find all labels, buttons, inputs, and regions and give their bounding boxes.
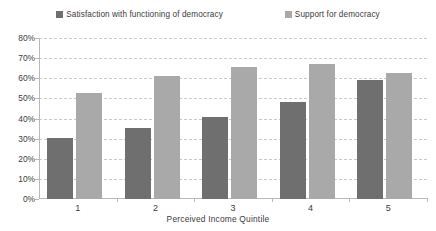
chart-legend: Satisfaction with functioning of democra… bbox=[0, 6, 436, 22]
y-tick-label: 70% bbox=[3, 53, 35, 63]
x-tick-mark bbox=[349, 198, 350, 202]
bar-support[interactable] bbox=[309, 64, 335, 199]
y-tick-label: 60% bbox=[3, 73, 35, 83]
bar-support[interactable] bbox=[76, 93, 102, 199]
bar-chart: Satisfaction with functioning of democra… bbox=[0, 0, 436, 231]
bar-support[interactable] bbox=[386, 73, 412, 199]
bar-support[interactable] bbox=[231, 67, 257, 199]
y-tick-label: 40% bbox=[3, 114, 35, 124]
bar-group bbox=[349, 38, 427, 199]
y-tick-mark bbox=[35, 199, 39, 200]
x-tick-label: 2 bbox=[135, 203, 175, 213]
bar-group bbox=[272, 38, 350, 199]
legend-swatch-support bbox=[285, 11, 292, 18]
bar-group bbox=[194, 38, 272, 199]
y-tick-label: 0% bbox=[3, 194, 35, 204]
legend-label-satisfaction: Satisfaction with functioning of democra… bbox=[66, 10, 223, 19]
x-tick-label: 1 bbox=[58, 203, 98, 213]
legend-swatch-satisfaction bbox=[56, 11, 63, 18]
bar-satisfaction[interactable] bbox=[280, 102, 306, 199]
y-axis-labels: 0%10%20%30%40%50%60%70%80% bbox=[0, 38, 35, 199]
bar-satisfaction[interactable] bbox=[202, 117, 228, 200]
bar-support[interactable] bbox=[154, 76, 180, 199]
bar-satisfaction[interactable] bbox=[357, 80, 383, 199]
x-axis-title: Perceived Income Quintile bbox=[0, 214, 436, 224]
y-tick-label: 10% bbox=[3, 174, 35, 184]
x-tick-mark bbox=[194, 198, 195, 202]
bars-layer bbox=[39, 38, 427, 199]
legend-entry-support[interactable]: Support for democracy bbox=[285, 10, 380, 19]
x-tick-mark bbox=[117, 198, 118, 202]
x-tick-label: 5 bbox=[368, 203, 408, 213]
bar-satisfaction[interactable] bbox=[47, 138, 73, 199]
bar-satisfaction[interactable] bbox=[125, 128, 151, 199]
legend-label-support: Support for democracy bbox=[295, 10, 380, 19]
bar-group bbox=[117, 38, 195, 199]
x-tick-label: 3 bbox=[213, 203, 253, 213]
y-tick-label: 50% bbox=[3, 93, 35, 103]
x-tick-mark bbox=[427, 198, 428, 202]
legend-entry-satisfaction[interactable]: Satisfaction with functioning of democra… bbox=[56, 10, 223, 19]
x-tick-label: 4 bbox=[291, 203, 331, 213]
y-tick-label: 80% bbox=[3, 33, 35, 43]
x-tick-mark bbox=[272, 198, 273, 202]
bar-group bbox=[39, 38, 117, 199]
y-tick-label: 30% bbox=[3, 134, 35, 144]
y-tick-label: 20% bbox=[3, 154, 35, 164]
